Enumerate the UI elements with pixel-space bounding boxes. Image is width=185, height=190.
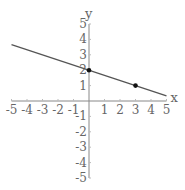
x-tick-label: -3 [37,103,49,117]
x-tick-label: 3 [132,103,140,117]
coordinate-plane: -5-4-3-2-11234554321-1-2-3-4-5 x y [0,0,185,190]
y-tick-label: -3 [75,140,87,154]
y-tick-label: 2 [79,63,87,77]
y-tick-label: -4 [75,156,87,170]
y-tick-label: -5 [75,171,87,185]
x-tick-label: -2 [52,103,64,117]
y-tick-label: -1 [75,109,87,123]
y-axis-label: y [84,6,93,21]
x-tick-label: 1 [101,103,109,117]
data-point [133,83,138,88]
x-tick-label: 2 [116,103,124,117]
x-tick-label: 5 [163,103,171,117]
x-axis-label: x [171,90,179,105]
x-tick-label: -4 [21,103,33,117]
y-tick-label: 3 [79,48,87,62]
x-tick-label: -5 [6,103,18,117]
y-tick-label: 1 [79,79,87,93]
x-tick-label: 4 [147,103,155,117]
data-point [87,68,92,73]
y-tick-label: -2 [75,125,87,139]
y-tick-label: 4 [79,32,87,46]
